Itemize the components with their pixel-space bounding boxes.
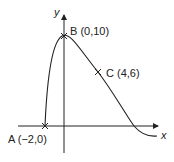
point-a-label: A (−2,0) <box>8 134 47 145</box>
y-axis-label: y <box>54 7 60 18</box>
x-axis-label: x <box>161 130 167 141</box>
point-b-label: B (0,10) <box>70 26 109 37</box>
function-curve <box>45 35 157 136</box>
point-c-label: C (4,6) <box>106 68 140 79</box>
point-c-marker <box>95 69 101 75</box>
